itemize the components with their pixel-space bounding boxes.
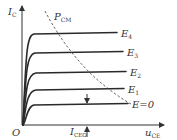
- x-axis-label: uCE: [145, 127, 160, 139]
- curve-label-E1: E1: [127, 84, 139, 96]
- curve-label-E2: E2: [129, 67, 141, 79]
- curve-E4: [23, 33, 117, 126]
- origin-label: O: [12, 127, 20, 138]
- iceo-label: ICEO: [69, 126, 87, 138]
- y-axis-label: IC: [7, 6, 17, 18]
- output-characteristic-diagram: IC uCE O E4E3E2E1E=0 PCM ICEO: [0, 0, 177, 140]
- curves-group: E4E3E2E1E=0: [23, 28, 155, 125]
- curve-label-E4: E4: [120, 28, 132, 40]
- curve-label-E0: E=0: [131, 99, 155, 110]
- curve-E1: [23, 89, 124, 126]
- curve-label-E3: E3: [126, 47, 138, 59]
- curve-E2: [23, 72, 126, 126]
- curve-E0: [23, 104, 128, 126]
- pcm-label: PCM: [53, 11, 71, 23]
